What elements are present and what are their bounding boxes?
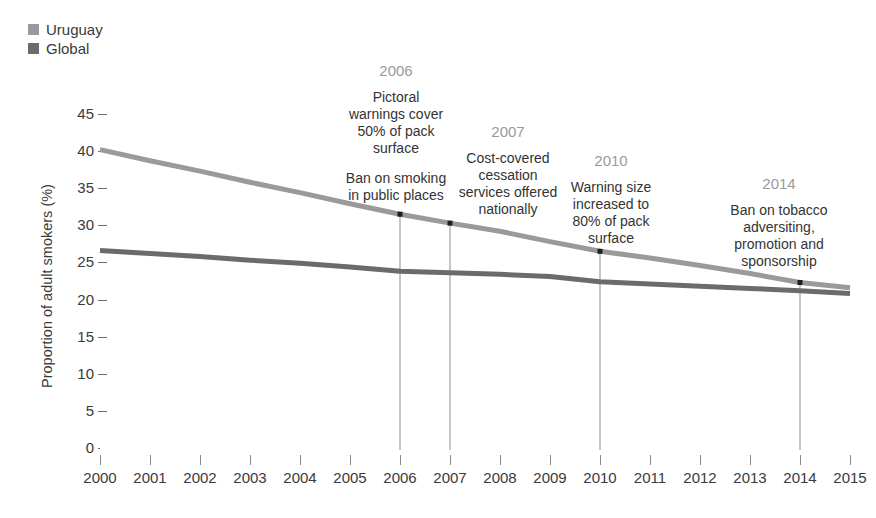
- y-axis-tick-label: 35: [52, 180, 94, 195]
- x-axis-tick-mark: [750, 455, 751, 465]
- x-axis-tick-mark: [650, 455, 651, 465]
- annotation-paragraph: Warning sizeincreased to80% of packsurfa…: [547, 179, 675, 247]
- y-axis-tick-mark: [98, 337, 107, 338]
- legend-item-label: Uruguay: [46, 22, 103, 37]
- y-axis-tick-mark: [98, 188, 107, 189]
- y-axis-tick-mark: [98, 225, 107, 226]
- square-swatch-icon: [28, 43, 39, 54]
- x-axis-tick-mark: [450, 455, 451, 465]
- y-axis-tick-mark: [98, 151, 107, 152]
- x-axis-tick-mark: [700, 455, 701, 465]
- y-axis-tick-label: 45: [52, 106, 94, 121]
- legend-item-global: Global: [28, 39, 198, 58]
- y-axis-tick-label: 40: [52, 143, 94, 158]
- x-axis-tick-mark: [100, 455, 101, 465]
- y-axis-tick-label: 10: [52, 366, 94, 381]
- x-axis-tick-mark: [800, 455, 801, 465]
- y-axis-tick-label: 30: [52, 217, 94, 232]
- data-point-marker-2007: [448, 221, 453, 226]
- annotation-2010: 2010Warning sizeincreased to80% of packs…: [547, 153, 675, 247]
- annotation-2014: 2014Ban on tobaccoadversiting,promotion …: [706, 176, 852, 270]
- y-axis-tick-label: 0: [52, 440, 94, 455]
- x-axis-tick-mark: [400, 455, 401, 465]
- y-axis-tick-mark: [98, 374, 107, 375]
- x-axis-tick-mark: [300, 455, 301, 465]
- y-axis-tick-label: 15: [52, 329, 94, 344]
- y-axis-tick-label: 5: [52, 403, 94, 418]
- x-axis-tick-mark: [500, 455, 501, 465]
- x-axis-tick-mark: [200, 455, 201, 465]
- legend-item-label: Global: [46, 41, 89, 56]
- y-axis-tick-mark: [98, 114, 107, 115]
- x-axis-tick-mark: [350, 455, 351, 465]
- data-point-marker-2010: [598, 249, 603, 254]
- y-axis-tick-mark: [98, 300, 107, 301]
- x-axis-line: [100, 448, 852, 449]
- y-axis-tick-label: 20: [52, 292, 94, 307]
- x-axis-tick-mark: [600, 455, 601, 465]
- annotation-year-label: 2010: [547, 153, 675, 170]
- square-swatch-icon: [28, 24, 39, 35]
- x-axis-tick-mark: [850, 455, 851, 465]
- y-axis-tick-label: 25: [52, 254, 94, 269]
- data-point-marker-2006: [398, 212, 403, 217]
- annotation-year-label: 2006: [327, 63, 465, 80]
- x-axis-tick-label: 2015: [820, 470, 876, 485]
- y-axis-title: Proportion of adult smokers (%): [39, 121, 55, 451]
- x-axis-tick-mark: [150, 455, 151, 465]
- annotation-year-label: 2014: [706, 176, 852, 193]
- annotation-year-label: 2007: [443, 124, 573, 141]
- x-axis-tick-mark: [550, 455, 551, 465]
- chart-legend: Uruguay Global: [28, 20, 198, 58]
- legend-item-uruguay: Uruguay: [28, 20, 198, 39]
- data-point-marker-2014: [798, 280, 803, 285]
- y-axis-tick-mark: [98, 411, 107, 412]
- annotation-paragraph: Ban on tobaccoadversiting,promotion ands…: [706, 202, 852, 270]
- x-axis-tick-mark: [250, 455, 251, 465]
- smoking-prevalence-line-chart: Uruguay Global Proportion of adult smoke…: [0, 0, 876, 518]
- y-axis-tick-mark: [98, 262, 107, 263]
